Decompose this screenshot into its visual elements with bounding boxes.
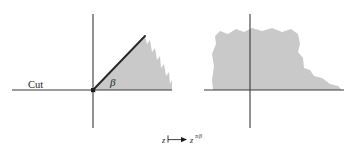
conformal-mapping-figure: Cut β z^(pi/beta) ========== --> z z π/β [0, 0, 356, 154]
half-plane-shaded-region [212, 28, 342, 90]
source-plane-panel: Cut β [12, 14, 172, 128]
mapping-caption: z z π/β [161, 133, 202, 146]
wedge-shaded-region [93, 36, 172, 90]
caption-source-variable: z [161, 136, 166, 145]
figure-canvas: Cut β z^(pi/beta) ========== --> z z π/β [0, 0, 356, 154]
source-origin-marker [91, 88, 95, 92]
maps-to-arrow-icon [168, 135, 187, 142]
caption-exponent: π/β [195, 133, 202, 139]
caption-image-variable: z [189, 136, 194, 145]
image-plane-panel [204, 14, 344, 128]
beta-angle-label: β [109, 76, 116, 88]
cut-label: Cut [28, 79, 43, 90]
